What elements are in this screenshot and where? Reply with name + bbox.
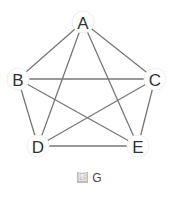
graph-nodes: ABCDE: [7, 11, 166, 157]
edge-A-E: [83, 22, 138, 146]
node-label: A: [77, 14, 89, 33]
graph-edges: [18, 22, 155, 146]
node-B: B: [7, 68, 29, 90]
node-D: D: [27, 135, 49, 157]
node-label: D: [32, 138, 44, 157]
node-A: A: [72, 11, 94, 33]
node-label: C: [149, 71, 161, 90]
edge-A-C: [83, 22, 155, 79]
edge-A-D: [38, 22, 83, 146]
caption-label: G: [92, 171, 101, 185]
figure-caption: 图G: [0, 170, 179, 185]
figure-icon: 图: [77, 172, 88, 183]
node-label: E: [132, 138, 143, 157]
node-C: C: [144, 68, 166, 90]
node-E: E: [127, 135, 149, 157]
node-label: B: [12, 71, 23, 90]
